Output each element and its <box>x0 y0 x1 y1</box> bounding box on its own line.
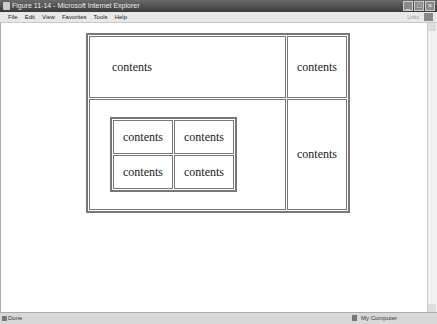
menu-file[interactable]: File <box>8 12 18 22</box>
menu-tools[interactable]: Tools <box>94 12 108 22</box>
inner-cell: contents <box>113 155 173 189</box>
scroll-down-button[interactable] <box>428 304 436 312</box>
status-bar: Done My Computer <box>0 312 437 324</box>
security-zone: My Computer <box>361 313 397 324</box>
vertical-scrollbar[interactable] <box>427 23 437 312</box>
window-controls: _ □ × <box>403 1 435 11</box>
title-bar: Figure 11-14 - Microsoft Internet Explor… <box>0 0 437 12</box>
maximize-button[interactable]: □ <box>414 1 424 11</box>
status-text: Done <box>8 313 22 324</box>
close-button[interactable]: × <box>425 1 435 11</box>
scroll-up-button[interactable] <box>428 23 436 31</box>
minimize-button[interactable]: _ <box>403 1 413 11</box>
menu-help[interactable]: Help <box>115 12 127 22</box>
cell-top-right: contents <box>287 36 347 98</box>
window-title: Figure 11-14 - Microsoft Internet Explor… <box>12 0 139 12</box>
outer-table: contents contents contents contents cont… <box>86 33 350 213</box>
cell-top-left: contents <box>89 36 286 98</box>
ie-icon <box>3 2 10 10</box>
menu-favorites[interactable]: Favorites <box>62 12 87 22</box>
windows-flag-icon <box>424 13 433 21</box>
menu-edit[interactable]: Edit <box>25 12 35 22</box>
computer-icon <box>352 315 357 321</box>
menu-bar: File Edit View Favorites Tools Help Link… <box>0 12 437 23</box>
links-toolbar[interactable]: Links <box>407 12 419 22</box>
cell-bottom-left: contents contents contents contents <box>89 99 286 210</box>
page-icon <box>2 316 7 321</box>
inner-cell: contents <box>174 120 234 154</box>
cell-bottom-right: contents <box>287 99 347 210</box>
menu-view[interactable]: View <box>42 12 55 22</box>
inner-cell: contents <box>113 120 173 154</box>
inner-cell: contents <box>174 155 234 189</box>
inner-table: contents contents contents contents <box>110 117 237 192</box>
